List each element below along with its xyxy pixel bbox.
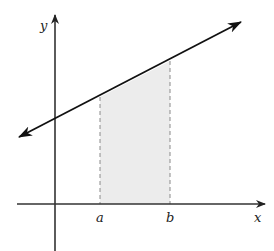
integral-diagram: y x a b xyxy=(0,0,274,251)
x-axis-label: x xyxy=(254,210,262,225)
bound-a-label: a xyxy=(96,210,104,225)
bound-b-label: b xyxy=(166,210,174,225)
shaded-area-region xyxy=(100,61,170,204)
y-axis-label: y xyxy=(39,18,48,33)
